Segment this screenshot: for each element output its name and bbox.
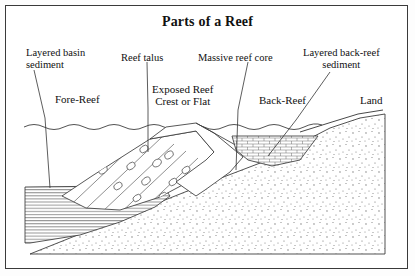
zone-label-exposed-reef-crest: Exposed Reef Crest or Flat (152, 83, 213, 107)
reef-cross-section (0, 0, 415, 276)
callout-massive-reef-core: Massive reef core (198, 52, 273, 64)
leader-layered-basin-sediment (34, 70, 50, 188)
callout-reef-talus: Reef talus (121, 52, 163, 64)
callout-layered-back-reef-sediment: Layered back-reef sediment (303, 47, 380, 70)
leader-reef-talus (147, 62, 148, 152)
zone-label-land: Land (360, 94, 383, 106)
callout-layered-basin-sediment: Layered basin sediment (26, 47, 85, 70)
zone-label-fore-reef: Fore-Reef (55, 93, 100, 105)
zone-label-back-reef: Back-Reef (259, 94, 306, 106)
diagram-canvas: Parts of a Reef (0, 0, 415, 276)
